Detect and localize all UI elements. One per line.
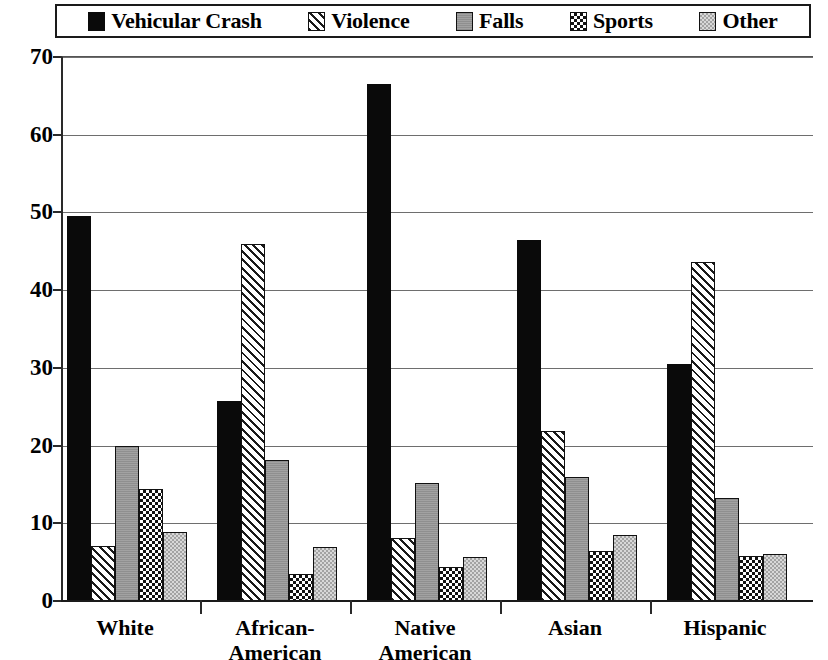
x-axis-tick-mark: [200, 600, 202, 614]
y-axis-tick-label: 70: [7, 45, 53, 68]
bar: [517, 240, 541, 601]
bar: [163, 532, 187, 601]
y-axis-tick-label: 10: [7, 511, 53, 534]
legend-item-sports: Sports: [570, 10, 653, 32]
legend-label-other: Other: [722, 10, 777, 32]
legend-item-violence: Violence: [308, 10, 409, 32]
y-axis-tick-label: 40: [7, 278, 53, 301]
legend-label-vehicular-crash: Vehicular Crash: [111, 10, 261, 32]
x-axis-category-label: Hispanic: [635, 616, 815, 641]
bar: [613, 535, 637, 601]
bar: [763, 554, 787, 601]
x-axis-tick-mark: [350, 600, 352, 614]
y-axis-tick-label: 50: [7, 200, 53, 223]
diagonal-hatch-swatch-icon: [308, 12, 325, 31]
bar: [463, 557, 487, 601]
bar: [265, 460, 289, 601]
legend-item-falls: Falls: [456, 10, 523, 32]
bar: [541, 431, 565, 601]
solid-black-swatch-icon: [88, 12, 105, 31]
y-axis-tick-label: 0: [7, 589, 53, 612]
bar: [691, 262, 715, 601]
chart-legend: Vehicular Crash Violence Falls Sports Ot…: [55, 4, 811, 38]
bar-group: [517, 57, 637, 601]
bar: [715, 498, 739, 601]
bar: [67, 216, 91, 601]
bar: [139, 489, 163, 601]
bar: [91, 546, 115, 601]
bar: [289, 574, 313, 601]
bar-group: [667, 57, 787, 601]
bar: [589, 551, 613, 601]
bar: [565, 477, 589, 601]
x-axis-tick-mark: [650, 600, 652, 614]
bar-group: [217, 57, 337, 601]
bar: [367, 84, 391, 601]
y-axis-tick-label: 60: [7, 122, 53, 145]
y-axis-tick-label: 20: [7, 433, 53, 456]
bar: [667, 364, 691, 601]
bar: [391, 538, 415, 601]
x-axis-baseline: [61, 600, 813, 602]
bar: [217, 401, 241, 601]
bar-group: [67, 57, 187, 601]
plot-area: [61, 56, 813, 601]
checkerboard-swatch-icon: [570, 12, 587, 31]
legend-label-sports: Sports: [593, 10, 653, 32]
x-axis-tick-mark: [500, 600, 502, 614]
bar: [739, 556, 763, 601]
bar: [115, 446, 139, 601]
bar: [415, 483, 439, 601]
legend-label-violence: Violence: [331, 10, 409, 32]
bar: [241, 244, 265, 601]
bar: [313, 547, 337, 601]
bar-chart-figure: Vehicular Crash Violence Falls Sports Ot…: [0, 0, 828, 660]
legend-item-vehicular-crash: Vehicular Crash: [88, 10, 261, 32]
y-axis-tick-label: 30: [7, 355, 53, 378]
y-axis: 010203040506070: [0, 0, 53, 660]
light-checker-swatch-icon: [699, 12, 716, 31]
legend-label-falls: Falls: [479, 10, 523, 32]
bar: [439, 567, 463, 601]
solid-gray-swatch-icon: [456, 12, 473, 31]
legend-item-other: Other: [699, 10, 777, 32]
bar-group: [367, 57, 487, 601]
